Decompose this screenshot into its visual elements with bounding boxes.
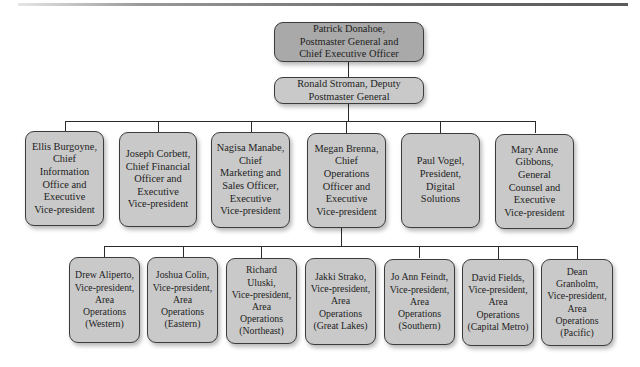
connector-level3-drop-1 bbox=[104, 246, 105, 257]
connector-level2-drop-5 bbox=[440, 121, 441, 133]
org-node-label: Ellis Burgoyne, Chief Information Office… bbox=[32, 141, 97, 217]
org-node-cfo: Joseph Corbett, Chief Financial Officer … bbox=[119, 132, 197, 227]
org-node-area-eastern: Joshua Colin, Vice-president, Area Opera… bbox=[147, 257, 218, 343]
org-node-area-southern: Jo Ann Feindt, Vice-president, Area Oper… bbox=[384, 259, 455, 345]
connector-level3-drop-5 bbox=[419, 246, 420, 258]
connector-level2-drop-4 bbox=[346, 121, 347, 133]
org-node-area-great-lakes: Jakki Strako, Vice-president, Area Opera… bbox=[305, 258, 376, 345]
connector-deputy-down bbox=[348, 104, 349, 122]
org-node-area-pacific: Dean Granholm, Vice-president, Area Oper… bbox=[541, 259, 613, 346]
org-node-coo: Megan Brenna, Chief Operations Officer a… bbox=[307, 133, 386, 228]
org-node-label: David Fields, Vice-president, Area Opera… bbox=[467, 272, 528, 333]
org-node-label: Patrick Donahoe, Postmaster General and … bbox=[299, 23, 399, 61]
org-node-label: Paul Vogel, President, Digital Solutions bbox=[417, 155, 465, 205]
org-node-label: Nagisa Manabe, Chief Marketing and Sales… bbox=[217, 142, 285, 218]
org-node-ceo: Patrick Donahoe, Postmaster General and … bbox=[274, 22, 424, 62]
org-node-cmo: Nagisa Manabe, Chief Marketing and Sales… bbox=[211, 132, 290, 228]
org-node-label: Megan Brenna, Chief Operations Officer a… bbox=[314, 143, 378, 219]
org-node-label: Joseph Corbett, Chief Financial Officer … bbox=[126, 148, 191, 211]
connector-level3-drop-7 bbox=[577, 246, 578, 259]
connector-coo-down bbox=[341, 228, 342, 247]
org-node-label: Jo Ann Feindt, Vice-president, Area Oper… bbox=[390, 271, 450, 332]
top-divider-rule bbox=[18, 3, 628, 6]
org-node-cio: Ellis Burgoyne, Chief Information Office… bbox=[25, 131, 104, 226]
org-node-label: Jakki Strako, Vice-president, Area Opera… bbox=[311, 271, 371, 332]
org-node-area-western: Drew Aliperto, Vice-president, Area Oper… bbox=[69, 257, 140, 343]
org-node-digital-solutions: Paul Vogel, President, Digital Solutions bbox=[401, 133, 480, 228]
connector-level3-bus bbox=[104, 246, 578, 247]
connector-level3-drop-6 bbox=[498, 246, 499, 259]
connector-level2-bus bbox=[65, 121, 536, 122]
org-node-deputy-postmaster-general: Ronald Stroman, Deputy Postmaster Genera… bbox=[274, 77, 424, 104]
org-node-label: Mary Anne Gibbons, General Counsel and E… bbox=[504, 144, 565, 220]
org-node-label: Drew Aliperto, Vice-president, Area Oper… bbox=[75, 269, 135, 330]
connector-level3-drop-3 bbox=[261, 246, 262, 258]
connector-ceo-deputy bbox=[348, 62, 349, 77]
org-node-label: Richard Uluski, Vice-president, Area Ope… bbox=[232, 264, 292, 337]
org-node-general-counsel: Mary Anne Gibbons, General Counsel and E… bbox=[495, 134, 574, 229]
org-node-label: Joshua Colin, Vice-president, Area Opera… bbox=[153, 269, 213, 330]
org-node-label: Dean Granholm, Vice-president, Area Oper… bbox=[547, 266, 607, 339]
org-node-area-capital-metro: David Fields, Vice-president, Area Opera… bbox=[462, 259, 534, 346]
org-node-label: Ronald Stroman, Deputy Postmaster Genera… bbox=[297, 78, 401, 103]
connector-level3-drop-2 bbox=[183, 246, 184, 257]
connector-level2-drop-6 bbox=[535, 121, 536, 133]
org-node-area-northeast: Richard Uluski, Vice-president, Area Ope… bbox=[226, 258, 297, 344]
